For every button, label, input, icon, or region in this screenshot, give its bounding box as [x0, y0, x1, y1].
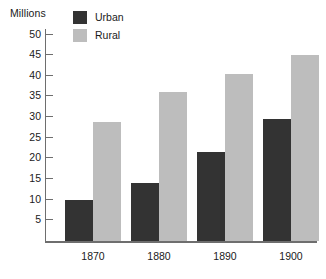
y-tick-label: 20: [16, 151, 41, 164]
bar-series-container: [45, 0, 317, 279]
x-axis-label-1900: 1900: [251, 250, 326, 263]
bar-rural-1880: [159, 92, 187, 241]
bar-rural-1870: [93, 122, 121, 241]
y-tick-label: 35: [16, 89, 41, 102]
bar-group-1900: [263, 38, 319, 241]
y-tick-label: 50: [16, 28, 41, 41]
bar-urban-1890: [197, 152, 225, 241]
y-tick-label: 40: [16, 69, 41, 82]
bar-chart: Millions UrbanRural 5045403530252015105 …: [0, 0, 326, 279]
y-tick-label: 30: [16, 110, 41, 123]
bar-urban-1900: [263, 119, 291, 241]
bar-group-1880: [131, 38, 187, 241]
bar-group-1870: [65, 38, 121, 241]
y-tick-label: 45: [16, 48, 41, 61]
y-tick-label: 10: [16, 193, 41, 206]
bar-rural-1890: [225, 74, 253, 241]
bar-urban-1870: [65, 200, 93, 241]
y-tick-label: 15: [16, 172, 41, 185]
y-tick-label: 5: [16, 213, 41, 226]
y-tick-label: 25: [16, 131, 41, 144]
bar-rural-1900: [291, 55, 319, 241]
plot-area: 5045403530252015105 1870188018901900: [0, 0, 326, 279]
bar-group-1890: [197, 38, 253, 241]
bar-urban-1880: [131, 183, 159, 241]
